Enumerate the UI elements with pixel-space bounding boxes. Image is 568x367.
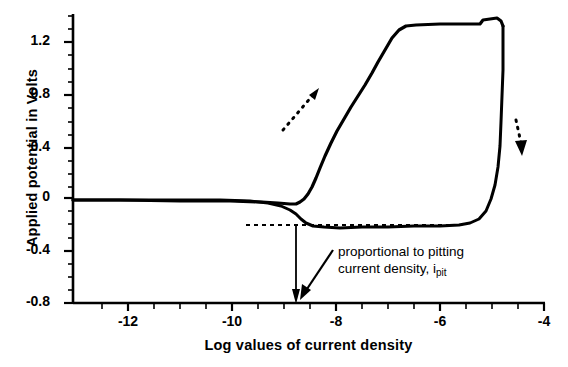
x-tick-label-3: -8 (314, 313, 358, 329)
pitting-annotation-text: proportional to pitting current density,… (338, 243, 464, 280)
forward-anodic-branch (73, 18, 503, 204)
axis-lines (73, 14, 545, 303)
annotation-leader-arrow (300, 250, 333, 300)
y-tick-label-6: -0.8 (4, 293, 50, 309)
reverse-cathodic-branch (73, 26, 503, 228)
polarization-curve-figure: 1.2 0.8 0.4 0 -0.4 -0.8 -12 -10 -8 -6 -4… (0, 0, 568, 367)
reverse-direction-arrow (515, 120, 527, 156)
x-axis-title: Log values of current density (73, 337, 544, 353)
y-axis-title: Applied potential in Volts (24, 38, 40, 278)
annotation-line-1: proportional to pitting (338, 243, 464, 260)
x-tick-label-5: -4 (522, 313, 566, 329)
plot-canvas (0, 0, 568, 367)
x-tick-label-2: -10 (210, 313, 254, 329)
vertical-measure-arrow (292, 225, 300, 304)
annotation-line-2: current density, ipit (338, 260, 464, 280)
forward-direction-arrow (283, 88, 319, 130)
x-tick-label-4: -6 (418, 313, 462, 329)
annotation-line-2-subscript: pit (436, 267, 447, 278)
x-tick-label-1: -12 (106, 313, 150, 329)
annotation-line-2-prefix: current density, i (338, 261, 436, 276)
